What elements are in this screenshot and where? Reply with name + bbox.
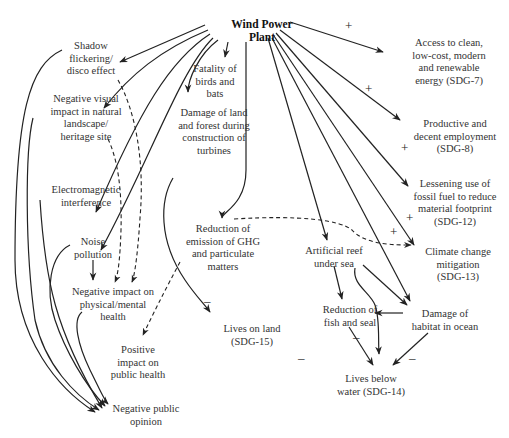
node-negative-public-opinion: Negative public opinion bbox=[104, 403, 188, 428]
edge-reef-fish bbox=[334, 266, 342, 299]
edge-root-shadow bbox=[120, 25, 205, 62]
edge-reef-habitat bbox=[363, 265, 407, 305]
minus-sign: – bbox=[353, 330, 360, 343]
node-sdg7: Access to clean, low-cost, modern and re… bbox=[397, 37, 501, 87]
node-damage-habitat-ocean: Damage of habitat in ocean bbox=[397, 308, 493, 333]
node-lives-below-water: Lives below water (SDG-14) bbox=[326, 373, 416, 398]
plus-sign: + bbox=[365, 82, 372, 95]
edge-root-reef bbox=[268, 38, 327, 240]
node-negative-physical-mental-health: Negative impact on physical/mental healt… bbox=[58, 286, 168, 324]
node-wind-power-plant: Wind Power Plant bbox=[222, 18, 302, 44]
plus-sign: + bbox=[345, 19, 352, 32]
node-reduction-ghg: Reduction of emission of GHG and particu… bbox=[171, 223, 275, 273]
node-artificial-reef: Artificial reef under sea bbox=[294, 245, 374, 270]
edge-root-sdg13 bbox=[274, 36, 414, 245]
plus-sign: + bbox=[390, 225, 397, 238]
node-electromagnetic-interference: Electromagnetic interference bbox=[36, 184, 136, 209]
node-positive-public-health: Positive impact on public health bbox=[100, 344, 176, 382]
node-damage-land-forest: Damage of land and forest during constru… bbox=[162, 107, 266, 157]
node-noise-pollution: Noise pollution bbox=[58, 236, 128, 261]
plus-sign: + bbox=[406, 211, 413, 224]
node-sdg8: Productive and decent employment (SDG-8) bbox=[401, 118, 509, 156]
node-reduction-fish-seal: Reduction of fish and seal bbox=[312, 304, 388, 329]
minus-sign: – bbox=[409, 351, 416, 364]
node-lives-on-land: Lives on land (SDG-15) bbox=[212, 323, 292, 348]
edge-root-sdg12 bbox=[276, 33, 408, 186]
edge-root-birds bbox=[225, 42, 228, 57]
minus-sign: – bbox=[204, 294, 211, 307]
node-sdg13: Climate change mitigation (SDG-13) bbox=[413, 246, 503, 284]
node-shadow-flickering: Shadow flickering/ disco effect bbox=[56, 40, 126, 78]
minus-sign: – bbox=[298, 351, 305, 364]
node-fatality-birds-bats: Fatality of birds and bats bbox=[180, 63, 250, 101]
node-sdg12: Lessening use of fossil fuel to reduce m… bbox=[401, 178, 509, 228]
causal-diagram: Wind Power Plant Shadow flickering/ disc… bbox=[0, 0, 509, 438]
plus-sign: + bbox=[401, 141, 408, 154]
node-negative-visual-impact: Negative visual impact in natural landsc… bbox=[36, 93, 136, 143]
